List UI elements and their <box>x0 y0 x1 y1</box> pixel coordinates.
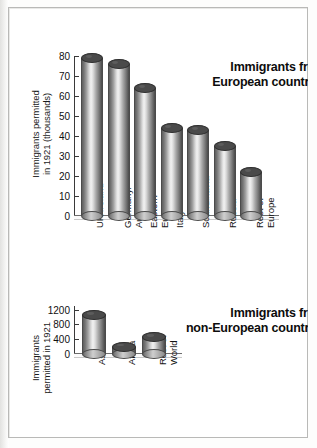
bar-top-highlight <box>139 85 145 88</box>
y-tick-label-european-30: 30 <box>44 151 70 162</box>
bar-top-ellipse <box>134 83 156 93</box>
bar-top-highlight <box>87 312 94 315</box>
y-tick-label-european-0: 0 <box>44 211 70 222</box>
bar-base-ellipse <box>240 211 262 221</box>
scanned-page: Immigrants permitted in 1921 (thousands)… <box>0 0 317 448</box>
bar-european-5 <box>214 146 236 216</box>
bar-non-european-0 <box>82 315 106 354</box>
bar-european-2 <box>134 88 156 216</box>
bar-top-ellipse <box>240 167 262 177</box>
y-axis-title-top-line1: Immigrants permitted <box>30 90 41 177</box>
bar-top-ellipse <box>108 59 130 69</box>
bar-non-european-1 <box>112 347 136 354</box>
y-tick-label-european-60: 60 <box>44 91 70 102</box>
y-axis-title-bottom-line1: Immigrants <box>30 335 41 381</box>
bar-base-ellipse <box>187 211 209 221</box>
bar-top-ellipse <box>187 125 209 135</box>
y-tick-non-european-800 <box>74 324 79 325</box>
bar-top-highlight <box>147 334 154 337</box>
bar-european-0 <box>81 58 103 216</box>
y-tick-european-80 <box>74 56 79 57</box>
y-tick-label-non-european-1200: 1200 <box>44 304 70 315</box>
chart-european-immigrants: Immigrants permitted in 1921 (thousands)… <box>16 18 308 293</box>
y-tick-european-60 <box>74 96 79 97</box>
chart-title-non-european-line1: Immigrants from <box>230 306 308 320</box>
bar-non-european-2 <box>142 337 166 354</box>
y-tick-european-40 <box>74 136 79 137</box>
y-tick-european-30 <box>74 156 79 157</box>
bar-european-3 <box>161 128 183 216</box>
bar-base-ellipse <box>81 211 103 221</box>
y-tick-label-european-50: 50 <box>44 111 70 122</box>
y-tick-label-european-70: 70 <box>44 71 70 82</box>
y-tick-label-european-10: 10 <box>44 191 70 202</box>
bar-top-ellipse <box>82 310 106 320</box>
bar-top-highlight <box>165 125 171 128</box>
bar-base-ellipse <box>214 211 236 221</box>
y-tick-label-european-40: 40 <box>44 131 70 142</box>
y-tick-non-european-400 <box>74 339 79 340</box>
chart-non-european-immigrants: Immigrants permitted in 1921 Immigrants … <box>16 300 308 440</box>
bar-base-ellipse <box>161 211 183 221</box>
y-tick-label-european-20: 20 <box>44 171 70 182</box>
y-tick-label-european-80: 80 <box>44 51 70 62</box>
y-tick-european-50 <box>74 116 79 117</box>
bar-top-ellipse <box>81 53 103 63</box>
bar-top-highlight <box>245 169 251 172</box>
y-tick-european-70 <box>74 76 79 77</box>
bar-top-ellipse <box>214 141 236 151</box>
x-label-line: Europe <box>266 197 277 228</box>
x-label-line: World <box>169 335 180 365</box>
y-tick-label-non-european-400: 400 <box>44 334 70 345</box>
bar-top-ellipse <box>161 123 183 133</box>
bar-base-ellipse <box>82 349 106 359</box>
bar-base-ellipse <box>134 211 156 221</box>
bar-european-4 <box>187 130 209 216</box>
y-tick-non-european-1200 <box>74 310 79 311</box>
bar-top-highlight <box>192 127 198 130</box>
bar-base-ellipse <box>108 211 130 221</box>
bar-top-highlight <box>86 55 92 58</box>
bar-european-1 <box>108 64 130 216</box>
y-tick-label-non-european-800: 800 <box>44 319 70 330</box>
bar-top-highlight <box>112 61 118 64</box>
bar-top-ellipse <box>142 332 166 342</box>
y-tick-label-non-european-0: 0 <box>44 349 70 360</box>
bar-top-highlight <box>218 143 224 146</box>
bar-european-6 <box>240 172 262 216</box>
bar-base-ellipse <box>142 349 166 359</box>
bar-top-highlight <box>117 344 124 347</box>
y-tick-european-20 <box>74 176 79 177</box>
y-tick-european-10 <box>74 196 79 197</box>
bar-top-ellipse <box>112 342 136 352</box>
